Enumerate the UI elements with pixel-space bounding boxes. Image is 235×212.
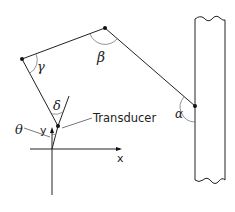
wall: [195, 16, 225, 183]
alpha-label: α: [175, 107, 183, 121]
beta-label: β: [96, 49, 105, 65]
gamma-label: γ: [37, 59, 45, 74]
x-axis-label: x: [117, 152, 124, 165]
transducer-label: Transducer: [92, 111, 156, 125]
beta-arc: [90, 34, 117, 44]
y-axis-arrow-icon: [50, 127, 54, 133]
delta-label: δ: [53, 98, 61, 113]
wall-joint-dot: [193, 104, 197, 108]
theta-label: θ: [15, 122, 23, 137]
linkage: [22, 28, 195, 149]
x-axis-arrow-icon: [116, 147, 122, 151]
left-joint-dot: [20, 57, 24, 61]
link-transducer-origin: [52, 126, 58, 149]
axes: [30, 127, 122, 195]
arm-linkage-diagram: α β γ δ θ Transducer x y: [0, 0, 235, 212]
link-wall-top: [105, 28, 195, 106]
transducer-leader: [62, 118, 92, 128]
transducer-dot: [56, 124, 60, 128]
y-axis-label: y: [40, 124, 47, 137]
top-joint-dot: [103, 26, 107, 30]
link-top-left: [22, 28, 105, 59]
